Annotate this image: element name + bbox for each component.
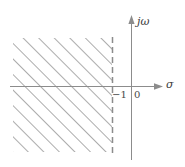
tick-label-zero: 0 xyxy=(134,90,140,100)
imaginary-axis-arrow-icon xyxy=(128,15,134,24)
hatched-region xyxy=(13,38,112,152)
figure-canvas xyxy=(0,0,185,167)
real-axis-arrow-icon xyxy=(154,83,163,89)
s-plane-figure: jω σ −1 0 xyxy=(0,0,185,167)
hatch-fill xyxy=(13,38,112,152)
imaginary-axis-label: jω xyxy=(137,16,149,27)
real-axis-label: σ xyxy=(166,79,174,90)
tick-label-minus-one: −1 xyxy=(112,90,127,100)
